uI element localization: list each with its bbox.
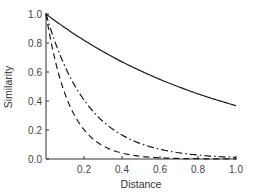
y-tick-label: 0.2	[28, 125, 42, 136]
series-dash-dot	[46, 14, 236, 157]
x-axis-label: Distance	[121, 178, 162, 190]
y-tick-label: 0.4	[28, 96, 42, 107]
similarity-distance-chart: 0.00.20.40.60.81.00.20.40.60.81.0 Distan…	[0, 0, 253, 194]
y-tick-label: 0.6	[28, 67, 42, 78]
y-tick-label: 1.0	[28, 9, 42, 20]
y-tick-label: 0.8	[28, 38, 42, 49]
x-tick-label: 0.4	[115, 164, 129, 175]
x-tick-label: 0.6	[153, 164, 167, 175]
data-series	[46, 14, 236, 159]
series-solid	[46, 14, 236, 106]
x-tick-label: 0.8	[191, 164, 205, 175]
y-axis-label: Similarity	[2, 65, 14, 108]
axes: 0.00.20.40.60.81.00.20.40.60.81.0	[28, 9, 243, 176]
y-tick-label: 0.0	[28, 154, 42, 165]
x-tick-label: 1.0	[229, 164, 243, 175]
series-dashed	[46, 14, 236, 159]
x-tick-label: 0.2	[77, 164, 91, 175]
